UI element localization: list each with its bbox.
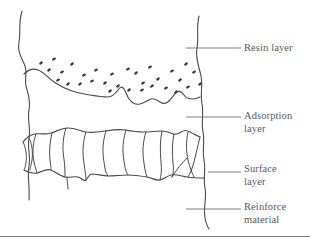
resin-particle bbox=[82, 73, 87, 77]
resin-particle bbox=[103, 81, 108, 86]
resin-particle bbox=[134, 71, 139, 76]
resin-particle bbox=[186, 85, 191, 89]
resin-particle bbox=[52, 57, 57, 61]
resin-particle bbox=[164, 86, 169, 90]
resin-particle bbox=[94, 68, 99, 72]
resin-particle bbox=[110, 72, 115, 76]
label-adsorption-layer: Adsorption layer bbox=[244, 110, 292, 135]
resin-particle bbox=[127, 88, 132, 93]
resin-particle bbox=[156, 77, 161, 82]
label-reinforce-material: Reinforce material bbox=[244, 201, 286, 226]
drip-detail bbox=[67, 177, 68, 189]
resin-particle bbox=[126, 67, 131, 71]
figure-bottom-rule bbox=[0, 236, 310, 237]
resin-particle bbox=[78, 82, 83, 87]
resin-particles-group bbox=[39, 57, 203, 94]
resin-particle bbox=[150, 84, 155, 89]
resin-particle bbox=[56, 78, 61, 82]
resin-particle bbox=[178, 78, 183, 83]
resin-particle bbox=[184, 62, 189, 67]
resin-particle bbox=[192, 70, 197, 74]
surface-layer-fiber-cells bbox=[33, 128, 200, 180]
label-surface-layer: Surface layer bbox=[244, 163, 277, 188]
resin-particle bbox=[148, 65, 153, 69]
resin-particle bbox=[70, 62, 75, 67]
label-resin-layer: Resin layer bbox=[244, 42, 293, 55]
resin-particle bbox=[66, 82, 71, 87]
resin-particle bbox=[39, 61, 44, 66]
left-notch-detail bbox=[23, 142, 26, 170]
resin-particle bbox=[170, 69, 175, 73]
resin-particle bbox=[47, 68, 52, 73]
resin-particle bbox=[140, 88, 145, 92]
resin-particle bbox=[141, 81, 146, 85]
resin-particle bbox=[60, 70, 65, 74]
resin-particle bbox=[90, 79, 95, 83]
resin-particle bbox=[108, 89, 113, 94]
figure-container: Resin layer Adsorption layer Surface lay… bbox=[0, 0, 310, 243]
surface-layer-bottom-edge bbox=[24, 169, 204, 180]
